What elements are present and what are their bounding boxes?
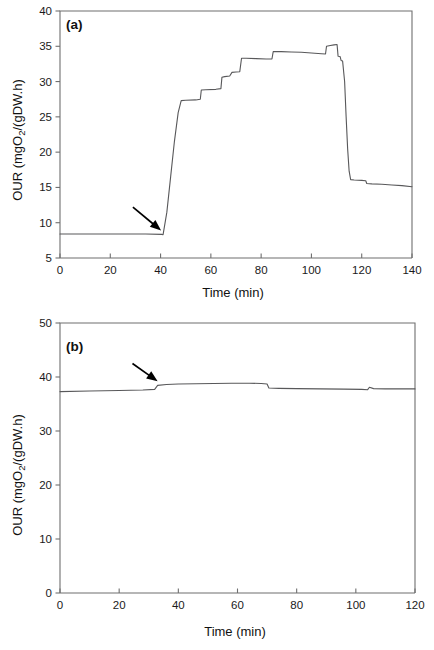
x-tick-label: 20 — [104, 264, 117, 276]
y-axis-title-b-pre: OUR (mgO — [10, 471, 25, 536]
x-tick-label: 40 — [154, 264, 167, 276]
y-tick-label: 30 — [39, 425, 52, 437]
x-axis-ticks-b: 020406080100120 — [57, 589, 425, 612]
arrow-annotation-a — [133, 207, 161, 230]
x-tick-label: 80 — [255, 264, 268, 276]
y-tick-label: 5 — [46, 252, 52, 264]
y-tick-label: 0 — [46, 587, 52, 599]
panel-label-a: (a) — [66, 17, 83, 32]
x-tick-label: 100 — [302, 264, 321, 276]
y-tick-label: 25 — [39, 111, 52, 123]
y-axis-title-b: OUR (mgO2/(gDW.h) — [10, 414, 27, 536]
x-axis-title-a: Time (min) — [202, 285, 264, 300]
y-axis-title-a-post: /(gDW.h) — [10, 79, 25, 130]
y-tick-label: 10 — [39, 533, 52, 545]
x-tick-label: 0 — [57, 599, 63, 611]
x-tick-label: 40 — [172, 599, 185, 611]
y-tick-label: 10 — [39, 217, 52, 229]
plot-frame-a — [60, 11, 412, 258]
chart-panel-a: 510152025303540 020406080100120140 (a) T… — [0, 0, 434, 310]
plot-frame-b — [60, 323, 415, 593]
chart-panel-b: 01020304050 020406080100120 (b) Time (mi… — [0, 310, 434, 650]
x-tick-label: 20 — [113, 599, 126, 611]
data-series-line-b — [60, 383, 415, 391]
x-tick-label: 60 — [231, 599, 244, 611]
x-tick-label: 120 — [405, 599, 424, 611]
x-tick-label: 100 — [346, 599, 365, 611]
y-tick-label: 40 — [39, 371, 52, 383]
arrow-shaft — [132, 364, 150, 377]
x-tick-label: 140 — [402, 264, 421, 276]
y-tick-label: 40 — [39, 5, 52, 17]
x-tick-label: 80 — [290, 599, 303, 611]
arrow-annotation-b — [132, 364, 157, 382]
x-tick-label: 0 — [57, 264, 63, 276]
x-tick-label: 60 — [204, 264, 217, 276]
y-axis-title-b-post: /(gDW.h) — [10, 414, 25, 465]
x-axis-ticks-a: 020406080100120140 — [57, 254, 422, 277]
x-axis-title-b: Time (min) — [204, 624, 266, 639]
y-tick-label: 30 — [39, 76, 52, 88]
data-series-line-a — [60, 45, 412, 235]
y-tick-label: 15 — [39, 181, 52, 193]
chart-svg-b: 01020304050 020406080100120 (b) Time (mi… — [0, 310, 434, 650]
y-tick-label: 50 — [39, 317, 52, 329]
y-tick-label: 20 — [39, 479, 52, 491]
y-tick-label: 20 — [39, 146, 52, 158]
x-tick-label: 120 — [352, 264, 371, 276]
y-axis-title-a: OUR (mgO2/(gDW.h) — [10, 79, 27, 201]
y-axis-ticks-b: 01020304050 — [39, 317, 60, 599]
arrow-head — [146, 371, 158, 381]
y-axis-title-a-pre: OUR (mgO — [10, 136, 25, 201]
y-axis-ticks-a: 510152025303540 — [39, 5, 60, 264]
arrow-shaft — [133, 207, 154, 225]
panel-label-b: (b) — [66, 339, 83, 354]
chart-svg-a: 510152025303540 020406080100120140 (a) T… — [0, 0, 434, 310]
y-tick-label: 35 — [39, 40, 52, 52]
figure-container: 510152025303540 020406080100120140 (a) T… — [0, 0, 434, 650]
